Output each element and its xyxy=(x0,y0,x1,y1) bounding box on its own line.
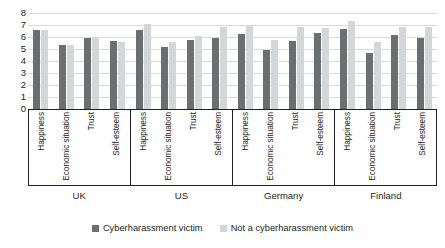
y-axis-tick-label: 8 xyxy=(21,8,26,18)
bar-victim xyxy=(289,41,296,109)
nonvictim-swatch xyxy=(220,225,227,232)
bar-nonvictim xyxy=(144,24,151,109)
category-axis-label-text: Happiness xyxy=(344,112,352,151)
bar-victim xyxy=(136,30,143,109)
category-axis-label-text: Trust xyxy=(292,112,300,130)
category-axis-label: Self-esteem xyxy=(106,110,128,185)
bar-nonvictim xyxy=(246,26,253,109)
category-label-band: HappinessEconomic situationTrustSelf-est… xyxy=(28,109,437,186)
bar-nonvictim xyxy=(169,42,176,109)
bar-victim xyxy=(238,34,245,109)
bar-pair xyxy=(183,13,205,109)
legend-label: Not a cyberharassment victim xyxy=(231,224,353,233)
y-axis-tick-label: 1 xyxy=(21,92,26,102)
category-label-group: HappinessEconomic situationTrustSelf-est… xyxy=(334,110,436,185)
category-axis-label: Economic situation xyxy=(362,110,384,185)
bar-pair xyxy=(336,13,358,109)
bar-pair xyxy=(285,13,307,109)
bar-pair xyxy=(362,13,384,109)
category-axis-label: Economic situation xyxy=(56,110,78,185)
category-label-group: HappinessEconomic situationTrustSelf-est… xyxy=(232,110,334,185)
category-axis-label-text: Economic situation xyxy=(165,112,173,181)
y-axis-tick-label: 0 xyxy=(21,104,26,114)
category-axis-label: Happiness xyxy=(31,110,53,185)
category-axis-label-text: Self-esteem xyxy=(215,112,223,156)
category-axis-label: Economic situation xyxy=(158,110,180,185)
group-axis-label: US xyxy=(130,188,232,204)
bar-nonvictim xyxy=(374,42,381,109)
bar-group xyxy=(335,13,437,109)
y-axis-tick-label: 5 xyxy=(21,44,26,54)
bar-pair xyxy=(81,13,103,109)
bar-nonvictim xyxy=(348,21,355,109)
bar-victim xyxy=(33,30,40,109)
bar-nonvictim xyxy=(195,36,202,109)
category-axis-label: Economic situation xyxy=(260,110,282,185)
legend-item: Cyberharassment victim xyxy=(92,224,203,233)
bar-pair xyxy=(260,13,282,109)
category-axis-label: Happiness xyxy=(337,110,359,185)
bar-pair xyxy=(157,13,179,109)
category-label-group: HappinessEconomic situationTrustSelf-est… xyxy=(130,110,232,185)
category-axis-label-text: Economic situation xyxy=(267,112,275,181)
bar-nonvictim xyxy=(118,42,125,109)
category-axis-label: Self-esteem xyxy=(208,110,230,185)
bar-groups xyxy=(28,13,437,109)
category-axis-label: Trust xyxy=(183,110,205,185)
group-axis-label: Finland xyxy=(335,188,437,204)
y-axis-tick-label: 7 xyxy=(21,20,26,30)
bar-nonvictim xyxy=(67,45,74,109)
bar-nonvictim xyxy=(399,27,406,109)
group-axis-label: Germany xyxy=(233,188,335,204)
bar-pair xyxy=(208,13,230,109)
plot-area xyxy=(28,13,437,109)
legend-label: Cyberharassment victim xyxy=(103,224,203,233)
victim-swatch xyxy=(92,225,99,232)
category-axis-label: Trust xyxy=(285,110,307,185)
bar-nonvictim xyxy=(271,40,278,109)
bar-nonvictim xyxy=(297,27,304,109)
bar-pair xyxy=(234,13,256,109)
category-axis-label-text: Trust xyxy=(88,112,96,130)
category-axis-label-text: Happiness xyxy=(38,112,46,151)
category-axis-label: Self-esteem xyxy=(412,110,434,185)
bar-victim xyxy=(84,38,91,109)
category-axis-label-text: Happiness xyxy=(242,112,250,151)
y-axis-tick-label: 3 xyxy=(21,68,26,78)
grouped-bar-chart: 876543210 HappinessEconomic situationTru… xyxy=(0,0,445,248)
bar-victim xyxy=(391,35,398,109)
bar-pair xyxy=(311,13,333,109)
bar-victim xyxy=(314,33,321,109)
bar-victim xyxy=(340,29,347,109)
bar-victim xyxy=(110,41,117,109)
category-axis-label-text: Self-esteem xyxy=(113,112,121,156)
category-axis-label: Happiness xyxy=(235,110,257,185)
category-axis-label-text: Economic situation xyxy=(369,112,377,181)
bar-pair xyxy=(132,13,154,109)
bar-pair xyxy=(387,13,409,109)
bar-nonvictim xyxy=(220,27,227,109)
category-axis-label: Trust xyxy=(387,110,409,185)
category-label-group: HappinessEconomic situationTrustSelf-est… xyxy=(29,110,130,185)
bar-victim xyxy=(212,38,219,109)
bar-pair xyxy=(30,13,52,109)
category-axis-label: Trust xyxy=(81,110,103,185)
bar-pair xyxy=(55,13,77,109)
bar-pair xyxy=(106,13,128,109)
bar-pair xyxy=(413,13,435,109)
category-axis-label-text: Happiness xyxy=(140,112,148,151)
category-axis-label: Self-esteem xyxy=(310,110,332,185)
bar-nonvictim xyxy=(41,30,48,109)
y-axis-tick-label: 2 xyxy=(21,80,26,90)
bar-victim xyxy=(263,50,270,109)
category-axis-label: Happiness xyxy=(133,110,155,185)
category-axis-label-text: Self-esteem xyxy=(317,112,325,156)
bar-nonvictim xyxy=(425,27,432,109)
category-axis-label-text: Self-esteem xyxy=(419,112,427,156)
bar-victim xyxy=(187,40,194,109)
category-axis-label-text: Trust xyxy=(190,112,198,130)
category-axis-label-text: Economic situation xyxy=(63,112,71,181)
bar-victim xyxy=(366,53,373,109)
group-label-band: UKUSGermanyFinland xyxy=(28,188,437,204)
bar-group xyxy=(233,13,335,109)
